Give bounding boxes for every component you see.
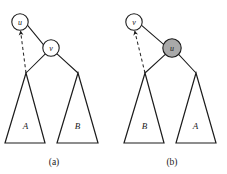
node-b-v-label: v: [132, 18, 136, 27]
subtree-triangle-a-A: [5, 73, 45, 143]
node-a-v-label: v: [49, 44, 53, 53]
node-b-u-label: u: [170, 44, 174, 53]
subtree-label-a-A: A: [22, 121, 29, 131]
subtree-triangle-b-B: [124, 73, 164, 143]
panel-b: v u B A (b): [124, 14, 216, 168]
edge-a-v-to-subtree-A: [26, 54, 46, 73]
dashed-arrow-a: [21, 31, 26, 73]
dashed-arrow-b: [135, 31, 145, 73]
edge-b-v-to-u: [142, 25, 164, 44]
subtree-label-b-A: A: [192, 121, 199, 131]
subtree-triangle-b-A: [176, 73, 216, 143]
subtree-label-a-B: B: [75, 121, 81, 131]
panel-a: u v A B (a): [5, 14, 98, 168]
subtree-label-b-B: B: [142, 121, 148, 131]
edge-a-u-to-v: [28, 25, 44, 44]
figure-root: u v A B (a) v u B: [0, 0, 227, 174]
node-a-u-label: u: [18, 18, 22, 27]
edge-b-u-to-subtree-B: [145, 54, 166, 73]
tree-rotation-diagram: u v A B (a) v u B: [0, 0, 227, 174]
edge-b-u-to-subtree-A: [178, 54, 196, 73]
panel-caption-a: (a): [49, 157, 60, 168]
edge-a-v-to-subtree-B: [57, 54, 78, 73]
subtree-triangle-a-B: [57, 73, 98, 143]
panel-caption-b: (b): [166, 157, 177, 168]
